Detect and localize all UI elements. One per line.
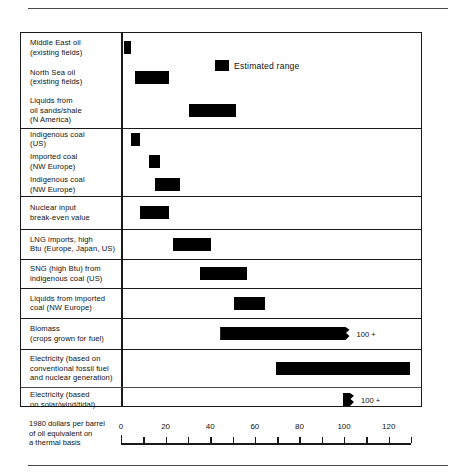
row-label-line: Biomass [30,324,122,334]
row-label-line: indigenous coal (US) [30,274,122,284]
row-label: SNG (high Btu) fromindigenous coal (US) [30,264,122,283]
row-label: North Sea oil(existing fields) [30,68,122,87]
row-label: Liquids fromoil sands/shale(N America) [30,96,122,125]
row-label: Indigenous coal(NW Europe) [30,175,122,194]
axis-tick [210,437,211,443]
row-label-line: LNG imports, high [30,235,122,245]
row-label-line: coal (NW Europe) [30,303,122,313]
axis-tick-label: 80 [295,422,304,431]
row-label-line: Btu (Europe, Japan, US) [30,244,122,254]
row-label-line: oil sands/shale [30,106,122,116]
row-label-line: (US) [30,139,122,149]
range-bar [276,362,410,375]
axis-tick [143,437,144,443]
group-separator [21,288,421,289]
range-bar [234,297,265,310]
row-label: Electricity (basedon solar/wind/tidal) [30,390,122,409]
axis-tick-label: 100 [337,422,350,431]
axis-tick [188,437,189,443]
bar-note: 100 + [361,396,380,405]
chart-frame: 100 +100 + Middle East oil(existing fiel… [20,32,422,407]
row-label-line: (N America) [30,115,122,125]
row-label-line: and nuclear generation) [30,373,122,383]
bar-note: 100 + [357,330,376,339]
row-label-line: Indigenous coal [30,130,122,140]
group-separator [21,229,421,230]
row-label-line: Liquids from [30,96,122,106]
row-label-line: Liquids from imported [30,294,122,304]
range-bar [131,133,140,146]
range-bar [220,327,349,340]
axis-caption-line: 1980 dollars per barrel [29,419,124,429]
row-label-line: (existing fields) [30,77,122,87]
row-label: Indigenous coal(US) [30,130,122,149]
legend-swatch-icon [215,60,229,71]
axis-tick [121,435,122,443]
row-label: Nuclear inputbreak-even value [30,203,122,222]
range-bar [189,104,236,117]
row-label-line: Electricity (based on [30,354,122,364]
axis-tick [299,437,300,443]
row-label-line: Electricity (based [30,390,122,400]
axis-tick-label: 40 [206,422,215,431]
row-label: Electricity (based onconventional fossil… [30,354,122,383]
axis-caption: 1980 dollars per barrelof oil equivalent… [29,419,124,448]
row-separator [21,387,421,388]
axis-tick [166,437,167,443]
row-label-line: (crops grown for fuel) [30,334,122,344]
row-label-line: North Sea oil [30,68,122,78]
row-label-line: (NW Europe) [30,185,122,195]
top-divider-rule [28,8,448,9]
range-bar [140,206,169,219]
row-label-line: (existing fields) [30,48,122,58]
axis-tick-label: 60 [250,422,259,431]
row-label-line: Nuclear input [30,203,122,213]
row-label-line: Imported coal [30,152,122,162]
row-label-line: Indigenous coal [30,175,122,185]
axis-tick [277,437,278,443]
range-bar [124,41,131,54]
axis-tick [411,437,412,443]
x-axis: 020406080100120 [121,443,411,445]
axis-tick-label: 120 [382,422,395,431]
range-bar [149,155,160,168]
group-separator [21,196,421,197]
group-separator [21,349,421,350]
axis-tick [389,437,390,443]
row-label: Imported coal(NW Europe) [30,152,122,171]
group-separator [21,259,421,260]
row-label-line: (NW Europe) [30,162,122,172]
axis-tick-label: 0 [119,422,123,431]
range-bar [173,238,211,251]
row-label: Middle East oil(existing fields) [30,38,122,57]
axis-tick [366,437,367,443]
row-label: Liquids from importedcoal (NW Europe) [30,294,122,313]
legend-label: Estimated range [234,61,300,71]
row-label-line: break-even value [30,213,122,223]
group-separator [21,318,421,319]
axis-caption-line: a thermal basis [29,438,124,448]
axis-caption-line: of oil equivalent on [29,429,124,439]
row-label: LNG imports, highBtu (Europe, Japan, US) [30,235,122,254]
axis-tick [344,437,345,443]
row-label-line: Middle East oil [30,38,122,48]
bottom-divider-rule [28,465,448,466]
axis-tick [255,437,256,443]
range-bar [155,178,180,191]
axis-tick [322,437,323,443]
range-bar [135,71,168,84]
row-label-line: on solar/wind/tidal) [30,400,122,410]
row-label: Biomass(crops grown for fuel) [30,324,122,343]
axis-tick-label: 20 [161,422,170,431]
row-label-line: SNG (high Btu) from [30,264,122,274]
range-bar [343,393,354,406]
legend: Estimated range [215,60,300,71]
axis-tick [233,437,234,443]
range-bar [200,267,247,280]
row-label-line: conventional fossil fuel [30,364,122,374]
